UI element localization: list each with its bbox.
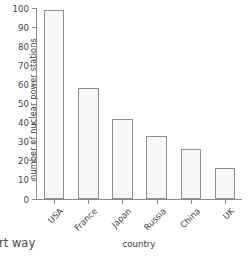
y-axis-tick: 70 [32,65,36,66]
y-axis-tick-label: 60 [18,80,29,90]
y-axis-tick-label: 50 [18,99,29,109]
x-axis-tick [88,200,89,204]
x-axis-title: country [36,239,242,249]
x-axis-tick-label: France [73,206,100,233]
y-axis-tick: 60 [32,84,36,85]
x-axis-tick-label: USA [46,206,65,225]
y-axis-tick: 50 [32,104,36,105]
y-axis-tick-label: 100 [13,4,29,14]
bar [146,136,167,199]
bar [112,119,133,199]
x-axis-tick [191,200,192,204]
y-axis-tick: 80 [32,46,36,47]
bar [215,168,236,199]
x-axis-tick-label: UK [221,206,236,221]
x-axis-tick [225,200,226,204]
bar-chart-figure: number of nuclear power stations 0102030… [0,0,250,260]
clipped-caption-fragment: art way [0,236,35,250]
y-axis-tick-label: 40 [18,118,29,128]
bar-series [37,8,242,199]
y-axis-tick-label: 20 [18,156,29,166]
y-axis-tick-label: 0 [24,195,29,205]
y-axis-tick-label: 80 [18,42,29,52]
y-axis-tick: 40 [32,123,36,124]
x-axis-tick-label: Japan [110,206,134,230]
bar [181,149,202,199]
bar [44,10,65,199]
x-axis-tick-label: China [178,206,202,230]
y-axis-tick: 20 [32,161,36,162]
y-axis-tick: 100 [32,8,36,9]
y-axis-tick-label: 70 [18,61,29,71]
bar [78,88,99,199]
x-axis-tick [157,200,158,204]
x-axis-tick [122,200,123,204]
x-axis-tick-label: Russia [142,206,168,232]
y-axis-tick: 30 [32,142,36,143]
y-axis-tick-label: 90 [18,23,29,33]
plot-area: 0102030405060708090100 [36,8,242,200]
y-axis-tick-label: 10 [18,175,29,185]
x-axis-tick [54,200,55,204]
y-axis-tick: 90 [32,27,36,28]
y-axis-tick: 10 [32,180,36,181]
y-axis-tick-label: 30 [18,137,29,147]
